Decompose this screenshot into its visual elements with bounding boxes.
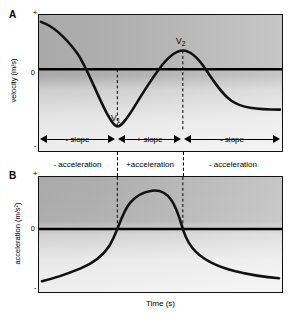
slope-segment-3: - slope (184, 128, 280, 150)
label-v2: V2 (176, 36, 185, 46)
acceleration-label-3: - acceleration (183, 155, 283, 173)
label-v1-text: V (111, 113, 117, 123)
plot-area-acceleration (38, 176, 283, 293)
acceleration-label-1: - acceleration (38, 155, 117, 173)
panel-letter-b: B (9, 170, 16, 181)
panel-letter-a: A (9, 9, 16, 20)
acceleration-curve-svg (39, 177, 282, 292)
physics-figure: A velocity (m/s) 0 + - V1 V2 - slope (0, 0, 295, 317)
acceleration-curve-path (42, 191, 279, 282)
label-v2-subscript: 2 (182, 40, 186, 47)
slope-label-3: - slope (218, 135, 246, 144)
label-v1-subscript: 1 (117, 117, 121, 124)
y-axis-zero-tick-b: 0 (25, 224, 35, 233)
acceleration-annotation-row: - acceleration +acceleration - accelerat… (38, 155, 283, 173)
y-axis-zero-tick-a: 0 (25, 68, 35, 77)
slope-label-1: - slope (63, 135, 91, 144)
slope-annotation-row: - slope + slope - slope (38, 128, 283, 150)
label-v1: V1 (111, 113, 120, 123)
velocity-curve-path (41, 22, 280, 126)
y-axis-label-acceleration: acceleration (m/s²) (13, 197, 22, 271)
slope-segment-1: - slope (40, 128, 115, 150)
slope-label-2: + slope (134, 135, 164, 144)
x-axis-label: Time (s) (38, 299, 283, 308)
slope-segment-2: + slope (118, 128, 181, 150)
acceleration-label-2: +acceleration (117, 155, 183, 173)
label-v2-text: V (176, 36, 182, 46)
y-axis-label-velocity: velocity (m/s) (9, 44, 18, 118)
